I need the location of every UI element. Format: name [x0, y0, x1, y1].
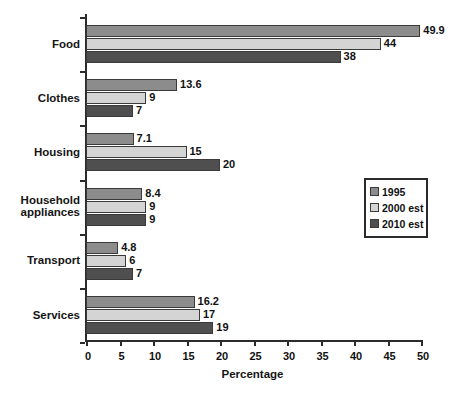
x-tick — [254, 340, 256, 346]
legend-swatch-icon — [370, 187, 379, 196]
bar-value-label: 19 — [213, 321, 228, 334]
bar-2010-est[interactable] — [86, 322, 213, 334]
legend-label: 1995 — [382, 186, 405, 198]
bar-1995[interactable] — [86, 296, 195, 308]
bar-value-label: 6 — [126, 254, 135, 267]
y-tick — [80, 125, 85, 127]
legend-swatch-icon — [370, 219, 379, 228]
category-label-services: Services — [2, 309, 80, 321]
bar-value-label: 8.4 — [142, 187, 160, 200]
bar-value-label: 4.8 — [118, 241, 136, 254]
bar-value-label: 7 — [133, 104, 142, 117]
legend: 19952000 est2010 est — [364, 178, 428, 238]
x-tick — [86, 340, 88, 346]
x-tick-label: 50 — [403, 350, 443, 362]
bar-2010-est[interactable] — [86, 51, 341, 63]
y-axis-line — [85, 14, 87, 341]
category-label-clothes: Clothes — [2, 92, 80, 104]
bar-2000-est[interactable] — [86, 255, 126, 267]
bar-2010-est[interactable] — [86, 159, 220, 171]
y-tick — [80, 342, 85, 344]
bar-2000-est[interactable] — [86, 309, 200, 321]
category-label-line: appliances — [2, 206, 80, 218]
bar-2000-est[interactable] — [86, 201, 146, 213]
legend-label: 2010 est — [382, 218, 423, 230]
bar-value-label: 7 — [133, 267, 142, 280]
bar-value-label: 16.2 — [195, 295, 219, 308]
x-tick — [120, 340, 122, 346]
bar-value-label: 9 — [146, 200, 155, 213]
legend-label: 2000 est — [382, 202, 423, 214]
bar-2000-est[interactable] — [86, 92, 146, 104]
category-label-line: Services — [2, 309, 80, 321]
bar-1995[interactable] — [86, 79, 177, 91]
bar-1995[interactable] — [86, 188, 142, 200]
bar-2000-est[interactable] — [86, 146, 187, 158]
x-tick — [153, 340, 155, 346]
bar-value-label: 15 — [187, 145, 202, 158]
bar-2000-est[interactable] — [86, 38, 381, 50]
x-tick — [187, 340, 189, 346]
y-tick — [80, 234, 85, 236]
x-tick — [421, 340, 423, 346]
bar-2010-est[interactable] — [86, 268, 133, 280]
bar-value-label: 44 — [381, 37, 396, 50]
category-label-housing: Housing — [2, 146, 80, 158]
legend-item-2010-est[interactable]: 2010 est — [370, 216, 423, 231]
category-label-line: Housing — [2, 146, 80, 158]
bar-value-label: 9 — [146, 91, 155, 104]
y-tick — [80, 288, 85, 290]
category-label-household: Householdappliances — [2, 194, 80, 218]
x-axis-title: Percentage — [85, 368, 420, 380]
y-tick — [80, 180, 85, 182]
bar-value-label: 9 — [146, 213, 155, 226]
bar-value-label: 20 — [220, 158, 235, 171]
bar-1995[interactable] — [86, 25, 420, 37]
legend-item-2000-est[interactable]: 2000 est — [370, 200, 423, 215]
x-tick — [287, 340, 289, 346]
legend-swatch-icon — [370, 203, 379, 212]
category-label-line: Transport — [2, 254, 80, 266]
category-label-line: Household — [2, 194, 80, 206]
bar-1995[interactable] — [86, 242, 118, 254]
x-tick — [220, 340, 222, 346]
bar-value-label: 17 — [200, 308, 215, 321]
plot-area: 05101520253035404550 49.9443813.6977.115… — [85, 14, 420, 340]
category-label-transport: Transport — [2, 254, 80, 266]
bar-1995[interactable] — [86, 133, 134, 145]
y-tick — [80, 17, 85, 19]
bar-chart: FoodClothesHousingHouseholdappliancesTra… — [0, 0, 467, 404]
category-axis-labels: FoodClothesHousingHouseholdappliancesTra… — [0, 14, 80, 340]
legend-item-1995[interactable]: 1995 — [370, 184, 423, 199]
bar-value-label: 38 — [341, 50, 356, 63]
bar-value-label: 13.6 — [177, 78, 201, 91]
bar-2010-est[interactable] — [86, 105, 133, 117]
category-label-line: Clothes — [2, 92, 80, 104]
x-tick — [388, 340, 390, 346]
x-tick — [354, 340, 356, 346]
bar-2010-est[interactable] — [86, 214, 146, 226]
bar-value-label: 49.9 — [420, 24, 444, 37]
bar-value-label: 7.1 — [134, 132, 152, 145]
category-label-food: Food — [2, 38, 80, 50]
y-tick — [80, 71, 85, 73]
x-tick — [321, 340, 323, 346]
category-label-line: Food — [2, 38, 80, 50]
